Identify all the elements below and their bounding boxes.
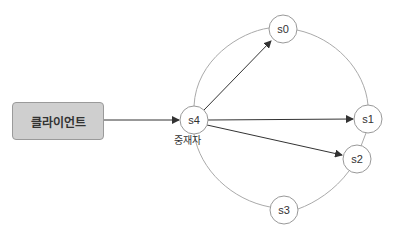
- edge-s4-s2: [207, 125, 342, 155]
- ring-arc-s2-s3: [298, 171, 349, 209]
- edge-s4-s0: [204, 41, 271, 110]
- node-s0-label: s0: [269, 15, 297, 43]
- node-s2-label: s2: [343, 145, 371, 173]
- proxy-label: 중재자: [174, 132, 201, 147]
- ring-arc-s3-s4: [194, 134, 270, 207]
- edge-s4-s1: [208, 119, 353, 120]
- node-s3-label: s3: [270, 196, 298, 224]
- ring-arc-s4-s0: [194, 28, 269, 106]
- node-s1-label: s1: [354, 105, 382, 133]
- ring-arc-s0-s1: [297, 30, 368, 105]
- node-s4-label: s4: [180, 106, 208, 134]
- client-box: 클라이언트: [12, 102, 104, 140]
- client-label: 클라이언트: [31, 113, 86, 130]
